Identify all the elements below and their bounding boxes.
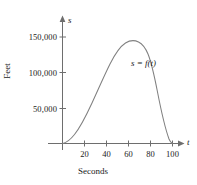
y-tick-label-150000: 150,000 xyxy=(20,32,57,42)
x-tick-label-100: 100 xyxy=(163,149,183,159)
x-tick-label-60: 60 xyxy=(119,149,139,159)
altitude-curve xyxy=(63,41,173,144)
x-tick-label-40: 40 xyxy=(97,149,117,159)
altitude-chart-figure: 150,000 100,000 50,000 20 40 60 80 100 s… xyxy=(0,0,197,185)
x-axis-variable-label: t xyxy=(187,137,190,147)
y-tick-label-50000: 50,000 xyxy=(20,104,57,114)
x-tick-label-20: 20 xyxy=(75,149,95,159)
y-axis-variable-label: s xyxy=(68,15,72,25)
y-axis-title: Feet xyxy=(2,54,12,88)
y-axis-arrowhead xyxy=(60,16,66,23)
y-tick-label-100000: 100,000 xyxy=(20,68,57,78)
x-tick-label-80: 80 xyxy=(141,149,161,159)
curve-annotation-label: s = f(t) xyxy=(131,58,156,68)
x-axis-arrowhead xyxy=(178,141,185,147)
x-axis-title: Seconds xyxy=(78,166,108,176)
